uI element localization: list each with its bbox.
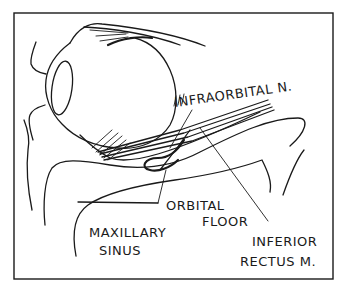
label-maxillary-sinus-1: MAXILLARY [89, 225, 166, 240]
label-orbital-floor-1: ORBITAL [166, 198, 225, 213]
orbit-anatomy-diagram: INFRAORBITAL N. ORBITAL FLOOR MAXILLARY … [0, 0, 345, 285]
label-inferior-rectus-1: INFERIOR [252, 234, 317, 249]
label-orbital-floor-2: FLOOR [202, 214, 248, 229]
label-inferior-rectus-2: RECTUS M. [240, 254, 316, 269]
label-maxillary-sinus-2: SINUS [99, 243, 141, 258]
